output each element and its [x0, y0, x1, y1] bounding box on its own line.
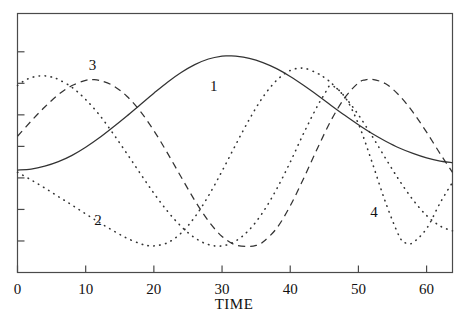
axis-ticks [18, 52, 427, 273]
x-tick-label-60: 60 [419, 281, 434, 297]
series-curve-1 [18, 56, 453, 170]
line-chart-plot: 0102030405060 1234 TIME [0, 0, 467, 322]
series-label-3: 3 [89, 57, 97, 73]
series-curve-2 [18, 68, 453, 246]
series-labels: 1234 [89, 57, 379, 228]
series-label-1: 1 [210, 78, 218, 94]
data-curves [18, 56, 453, 247]
x-tick-label-30: 30 [215, 281, 230, 297]
series-curve-4 [18, 76, 453, 246]
plot-border [18, 14, 453, 273]
x-axis-title: TIME [215, 296, 254, 312]
plot-frame [18, 14, 453, 273]
series-label-4: 4 [370, 204, 378, 220]
x-tick-label-50: 50 [351, 281, 366, 297]
series-curve-3 [18, 79, 453, 246]
x-tick-labels: 0102030405060 [14, 281, 434, 297]
x-tick-label-20: 20 [146, 281, 161, 297]
x-tick-label-10: 10 [78, 281, 93, 297]
series-label-2: 2 [94, 212, 102, 228]
x-tick-label-40: 40 [283, 281, 298, 297]
chart-figure: 0102030405060 1234 TIME [0, 0, 467, 322]
x-tick-label-0: 0 [14, 281, 22, 297]
